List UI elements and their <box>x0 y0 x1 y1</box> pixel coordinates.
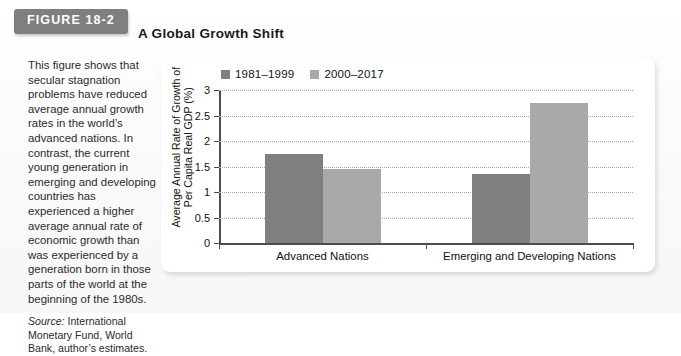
x-tick-mark <box>219 243 220 249</box>
legend-item-1[interactable]: 1981–1999 <box>221 68 294 80</box>
bar-2-2 <box>530 103 588 243</box>
y-tick-label: 2.5 <box>195 110 210 122</box>
legend-swatch-icon <box>310 70 319 79</box>
caption-text: This figure shows that secular stagnatio… <box>28 58 156 306</box>
y-tick-mark <box>214 192 219 193</box>
bar-1-1 <box>265 154 323 243</box>
caption-column: This figure shows that secular stagnatio… <box>28 58 156 356</box>
x-axis-label: Emerging and Developing Nations <box>443 250 616 262</box>
y-axis-title-line-1: Average Annual Rate of Growth of <box>170 62 182 232</box>
x-tick-mark <box>633 243 634 249</box>
y-tick-mark <box>214 116 219 117</box>
legend-label: 2000–2017 <box>324 68 383 80</box>
y-tick-mark <box>214 218 219 219</box>
plot-wrapper: 1981–19992000–2017 Average Annual Rate o… <box>161 57 655 272</box>
figure-title: A Global Growth Shift <box>138 26 284 41</box>
legend-swatch-icon <box>221 70 230 79</box>
y-tick-mark <box>214 90 219 91</box>
y-axis-title-line-2: Per Capita Real GDP (%) <box>182 62 194 232</box>
y-tick-label: 3 <box>204 84 210 96</box>
y-tick-label: 2 <box>204 135 210 147</box>
x-axis-label: Advanced Nations <box>276 250 368 262</box>
plot-area: 00.511.522.53 <box>219 90 633 243</box>
figure-number-badge: FIGURE 18-2 <box>14 9 128 34</box>
legend-label: 1981–1999 <box>235 68 294 80</box>
source-label: Source: <box>28 315 65 327</box>
y-tick-label: 1 <box>204 186 210 198</box>
bar-1-2 <box>323 169 381 243</box>
bar-2-1 <box>472 174 530 243</box>
gridline <box>219 90 633 91</box>
y-tick-mark <box>214 141 219 142</box>
x-tick-mark <box>426 243 427 249</box>
legend-item-2[interactable]: 2000–2017 <box>310 68 383 80</box>
chart-card: 1981–19992000–2017 Average Annual Rate o… <box>161 57 655 272</box>
chart-legend: 1981–19992000–2017 <box>221 68 384 80</box>
y-tick-mark <box>214 167 219 168</box>
y-tick-label: 0.5 <box>195 212 210 224</box>
caption-source: Source: International Monetary Fund, Wor… <box>28 315 156 356</box>
y-tick-label: 0 <box>204 237 210 249</box>
y-axis-title: Average Annual Rate of Growth ofPer Capi… <box>170 62 194 232</box>
y-tick-label: 1.5 <box>195 161 210 173</box>
